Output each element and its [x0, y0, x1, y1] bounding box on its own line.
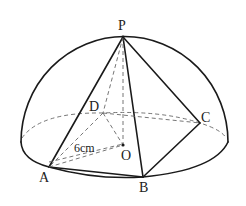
- center-point-O: [121, 143, 124, 146]
- hemisphere-pyramid-diagram: P D C O A B 6cm: [0, 0, 246, 206]
- radius-label: 6cm: [74, 141, 95, 155]
- edge-PD: [103, 37, 123, 113]
- edge-DO: [103, 113, 123, 145]
- apex-point-P: [122, 36, 125, 39]
- edge-BC: [143, 123, 200, 177]
- label-B: B: [139, 180, 148, 195]
- edge-DC: [103, 113, 200, 123]
- label-A: A: [39, 170, 50, 185]
- label-P: P: [118, 18, 126, 33]
- label-O: O: [121, 148, 131, 163]
- edge-PC: [123, 37, 200, 123]
- base-ellipse-back: [22, 112, 226, 138]
- label-D: D: [89, 99, 99, 114]
- label-C: C: [201, 110, 210, 125]
